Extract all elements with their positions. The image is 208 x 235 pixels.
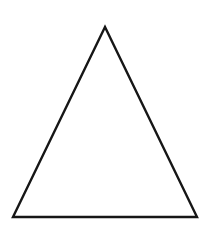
canvas-background (0, 0, 208, 235)
triangle-diagram-svg (0, 0, 208, 235)
figure-canvas (0, 0, 208, 235)
